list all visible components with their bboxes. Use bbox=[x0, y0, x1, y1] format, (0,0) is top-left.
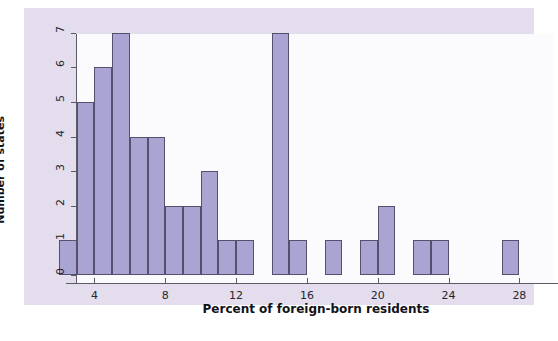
x-axis-tick bbox=[94, 278, 95, 284]
y-axis-tick-label: 6 bbox=[54, 60, 68, 67]
x-axis-tick-label: 16 bbox=[292, 289, 322, 302]
y-axis-tick bbox=[71, 102, 76, 103]
x-axis-tick bbox=[236, 278, 237, 284]
histogram-bar bbox=[325, 240, 343, 275]
histogram-bar bbox=[201, 171, 219, 275]
histogram-bar bbox=[236, 240, 254, 275]
y-axis-tick-label: 5 bbox=[54, 95, 68, 102]
histogram-bar bbox=[165, 206, 183, 275]
y-axis-tick-label: 1 bbox=[54, 233, 68, 240]
y-axis-tick bbox=[71, 275, 76, 276]
histogram-bar bbox=[378, 206, 396, 275]
histogram-bar bbox=[130, 137, 148, 275]
x-axis-tick-label: 20 bbox=[363, 289, 393, 302]
y-axis-tick bbox=[71, 33, 76, 34]
x-axis-tick-label: 24 bbox=[434, 289, 464, 302]
histogram-bar bbox=[360, 240, 378, 275]
x-axis-title: Percent of foreign-born residents bbox=[76, 302, 556, 316]
histogram-bar bbox=[431, 240, 449, 275]
histogram-bar bbox=[148, 137, 166, 275]
x-axis-tick bbox=[449, 278, 450, 284]
histogram-bar bbox=[272, 33, 290, 275]
histogram-bar bbox=[218, 240, 236, 275]
x-axis-tick bbox=[307, 278, 308, 284]
x-axis-tick bbox=[378, 278, 379, 284]
histogram-bar bbox=[183, 206, 201, 275]
histogram-bar bbox=[112, 33, 130, 275]
y-axis-tick bbox=[71, 240, 76, 241]
y-axis-tick-label: 0 bbox=[54, 268, 68, 275]
histogram-bar bbox=[413, 240, 431, 275]
x-axis-tick-label: 4 bbox=[79, 289, 109, 302]
histogram-figure: 01234567 481216202428 Number of states P… bbox=[0, 0, 558, 341]
x-axis-tick bbox=[165, 278, 166, 284]
x-axis-tick-label: 8 bbox=[150, 289, 180, 302]
x-axis-tick-label: 28 bbox=[504, 289, 534, 302]
histogram-bar bbox=[289, 240, 307, 275]
y-axis-tick bbox=[71, 67, 76, 68]
x-axis-tick-label: 12 bbox=[221, 289, 251, 302]
histogram-bar bbox=[502, 240, 520, 275]
x-axis-line bbox=[66, 283, 558, 284]
y-axis-tick-label: 7 bbox=[54, 26, 68, 33]
chart-panel: 01234567 481216202428 Number of states P… bbox=[24, 8, 534, 305]
x-axis-tick bbox=[519, 278, 520, 284]
y-axis-title: Number of states bbox=[0, 116, 114, 224]
